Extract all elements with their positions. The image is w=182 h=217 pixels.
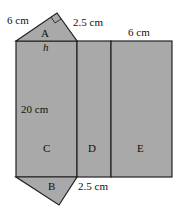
face-label-c: C [43, 143, 50, 154]
face-label-b: B [48, 181, 55, 192]
dimension-label-6cm-left: 6 cm [7, 15, 29, 26]
face-label-a: A [41, 28, 49, 39]
height-label-h: h [43, 42, 49, 53]
dimension-label-20cm: 20 cm [21, 104, 48, 115]
face-e [111, 41, 172, 177]
face-d [77, 41, 111, 177]
dimension-label-2-5cm-bottom: 2.5 cm [78, 181, 108, 192]
dimension-label-6cm-right: 6 cm [128, 27, 150, 38]
face-label-e: E [137, 143, 144, 154]
dimension-label-2-5cm-top: 2.5 cm [73, 17, 103, 28]
face-label-d: D [88, 143, 96, 154]
face-b [16, 177, 77, 205]
